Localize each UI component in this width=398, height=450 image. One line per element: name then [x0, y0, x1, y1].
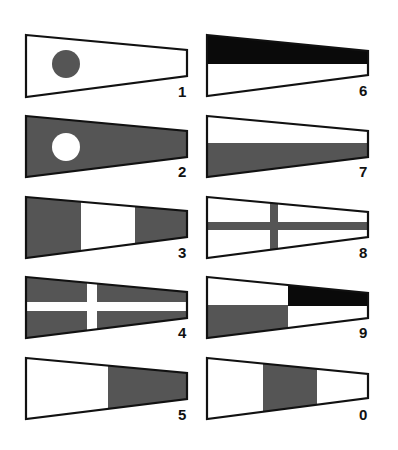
pennant-4: 4: [26, 270, 187, 345]
pennant-5: 5: [26, 350, 187, 425]
circle-emblem-icon: [52, 133, 80, 161]
pennant-label-2: 2: [178, 163, 186, 180]
pennant-label-8: 8: [359, 244, 367, 261]
pennant-0: 0: [207, 350, 368, 425]
pennant-chart: 1 2 3 4 5: [0, 0, 398, 450]
pennant-6: 6: [207, 30, 368, 105]
pennant-2: 2: [26, 116, 187, 180]
pennant-label-9: 9: [359, 324, 367, 341]
pennant-label-3: 3: [178, 244, 186, 261]
circle-emblem-icon: [52, 50, 80, 78]
pennant-label-1: 1: [178, 83, 186, 100]
pennant-label-0: 0: [359, 406, 367, 423]
pennant-label-7: 7: [359, 163, 367, 180]
pennant-7: 7: [207, 110, 368, 185]
pennant-label-5: 5: [178, 406, 186, 423]
pennant-9: 9: [207, 270, 368, 345]
pennant-label-4: 4: [178, 324, 187, 341]
pennant-1: 1: [26, 35, 187, 100]
pennant-8: 8: [207, 190, 368, 265]
pennant-label-6: 6: [359, 82, 367, 99]
pennant-3: 3: [26, 190, 187, 265]
